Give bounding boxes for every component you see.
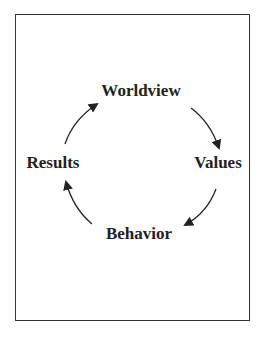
arrow-worldview-to-values [191, 108, 219, 148]
node-worldview: Worldview [101, 81, 180, 101]
node-behavior: Behavior [106, 224, 172, 244]
arrow-behavior-to-results [66, 182, 92, 224]
arrow-values-to-behavior [185, 189, 216, 225]
arrow-results-to-worldview [65, 104, 97, 144]
node-results: Results [27, 153, 80, 173]
node-values: Values [194, 153, 242, 173]
